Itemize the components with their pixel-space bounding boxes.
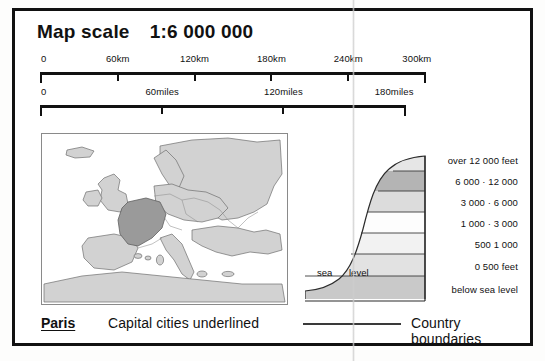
scale-bar-line — [41, 105, 405, 108]
elevation-key: sea level over 12 000 feet 6 000 · 12 00… — [305, 131, 520, 307]
scale-tick-label-km-120: 120km — [180, 53, 209, 64]
elevation-band-label-6: below sea level — [452, 284, 518, 295]
page-title: Map scale1:6 000 000 — [37, 21, 253, 43]
elevation-band-label-3: 1 000 · 3 000 — [461, 218, 518, 229]
title-label: Map scale — [37, 21, 130, 42]
scale-tick-label-miles-120: 120miles — [264, 86, 303, 97]
country-boundary-description: Country boundaries — [411, 315, 530, 347]
capital-city-description: Capital cities underlined — [108, 315, 259, 331]
elevation-band-label-1: 6 000 · 12 000 — [455, 176, 518, 187]
europe-inset-map — [41, 133, 288, 305]
scale-tick-km-120 — [194, 72, 196, 81]
sea-level-label-right: level — [349, 267, 369, 278]
scale-tick-label-km-180: 180km — [257, 53, 286, 64]
scale-tick-km-0 — [40, 72, 42, 83]
elevation-band-label-4: 500 1 000 — [475, 239, 518, 250]
europe-map-graphic — [42, 134, 287, 304]
elevation-band-label-2: 3 000 · 6 000 — [461, 197, 518, 208]
scale-tick-label-miles-60: 60miles — [145, 86, 178, 97]
legend-panel: Map scale1:6 000 000 060km120km180km240k… — [12, 8, 533, 346]
scale-tick-label-km-300: 300km — [402, 53, 431, 64]
scale-tick-miles-180 — [404, 105, 406, 116]
scale-tick-miles-0 — [40, 105, 42, 116]
scale-tick-label-km-60: 60km — [106, 53, 130, 64]
relief-profile-graphic — [305, 131, 437, 307]
scale-ratio-value: 1:6 000 000 — [150, 21, 254, 42]
scale-tick-label-km-0: 0 — [41, 53, 46, 64]
sea-level-label-left: sea — [317, 267, 332, 278]
elevation-band-label-0: over 12 000 feet — [448, 155, 518, 166]
scale-tick-label-miles-0: 0 — [41, 86, 46, 97]
scale-tick-miles-120 — [282, 105, 284, 114]
legend-row: Paris Capital cities underlined Country … — [15, 311, 530, 345]
map-scale-legend-page: Map scale1:6 000 000 060km120km180km240k… — [0, 0, 545, 361]
scale-tick-km-60 — [117, 72, 119, 81]
scale-tick-label-miles-180: 180miles — [375, 86, 414, 97]
elevation-band-label-5: 0 500 feet — [475, 261, 518, 272]
scale-tick-km-300 — [424, 72, 426, 83]
capital-city-sample: Paris — [41, 315, 75, 331]
scale-tick-km-180 — [270, 72, 272, 81]
scale-tick-label-km-240: 240km — [334, 53, 363, 64]
scale-tick-km-240 — [347, 72, 349, 81]
scale-bar-line — [41, 72, 425, 75]
country-boundary-line-sample — [303, 323, 401, 325]
scale-tick-miles-60 — [161, 105, 163, 114]
